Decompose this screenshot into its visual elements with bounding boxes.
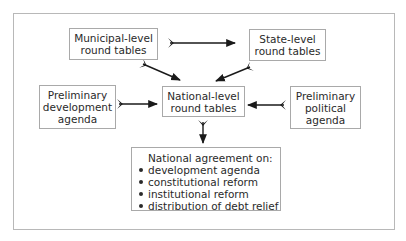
- node-label: round tables: [171, 102, 237, 114]
- node-label: round tables: [255, 45, 321, 57]
- agreement-header: National agreement on:: [138, 152, 273, 164]
- agreement-list: development agenda constitutional reform…: [138, 164, 278, 212]
- arrow-state-to-national: [216, 67, 250, 81]
- node-label: State-level: [259, 33, 316, 45]
- node-label: National-level: [167, 90, 240, 102]
- node-municipal-round-tables: Municipal-level round tables: [69, 28, 158, 60]
- node-label: Preliminary: [296, 90, 355, 102]
- node-label: round tables: [81, 44, 147, 56]
- agreement-item: institutional reform: [138, 188, 278, 200]
- arrow-municipal-to-national: [143, 64, 180, 80]
- node-national-agreement: National agreement on: development agend…: [131, 147, 281, 211]
- node-label: Preliminary: [48, 89, 107, 101]
- node-state-round-tables: State-level round tables: [249, 29, 326, 61]
- node-label: agenda: [58, 113, 97, 125]
- agreement-item: development agenda: [138, 164, 278, 176]
- node-label: political: [305, 102, 346, 114]
- node-label: development: [43, 101, 112, 113]
- agreement-item: constitutional reform: [138, 176, 278, 188]
- node-preliminary-political-agenda: Preliminary political agenda: [290, 86, 361, 129]
- node-label: Municipal-level: [74, 32, 153, 44]
- node-label: agenda: [306, 114, 345, 126]
- agreement-item: distribution of debt relief: [138, 200, 278, 212]
- node-preliminary-development-agenda: Preliminary development agenda: [39, 85, 116, 129]
- node-national-round-tables: National-level round tables: [162, 86, 245, 117]
